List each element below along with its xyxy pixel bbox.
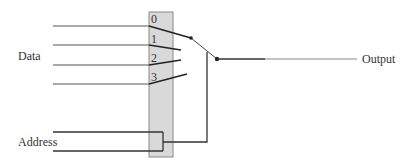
- multiplexer-diagram: 0 1 2 3 Data Address Output: [0, 0, 413, 166]
- output-label: Output: [362, 52, 396, 66]
- switch-arm: [191, 38, 217, 59]
- input-index-3: 3: [151, 70, 157, 84]
- data-label: Data: [18, 49, 41, 63]
- contact-dot: [189, 36, 193, 40]
- address-control: [53, 52, 207, 151]
- address-label: Address: [18, 135, 58, 149]
- input-index-1: 1: [151, 32, 157, 46]
- input-index-2: 2: [151, 51, 157, 65]
- data-input-lines: [53, 26, 149, 84]
- input-index-0: 0: [151, 12, 157, 26]
